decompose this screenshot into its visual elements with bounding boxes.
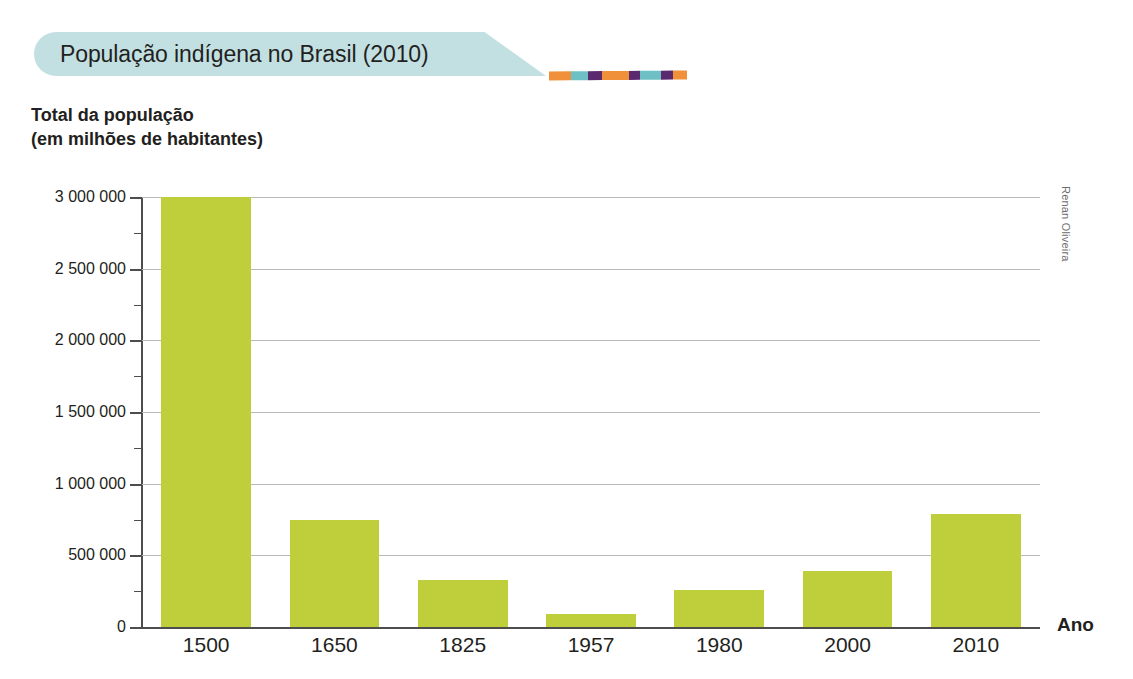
y-axis-tick-label: 0 bbox=[117, 618, 126, 636]
y-axis-minor-tick bbox=[134, 233, 141, 234]
y-axis-minor-tick bbox=[134, 520, 141, 521]
gridline bbox=[142, 555, 1040, 556]
bar[interactable] bbox=[290, 520, 380, 628]
y-axis-tick-label: 3 000 000 bbox=[55, 188, 126, 206]
x-axis-tick-label: 2010 bbox=[952, 633, 999, 657]
x-axis-title: Ano bbox=[1057, 614, 1094, 636]
gridline bbox=[142, 340, 1040, 341]
x-axis-tick-label: 1980 bbox=[696, 633, 743, 657]
bar[interactable] bbox=[161, 197, 251, 627]
bar[interactable] bbox=[803, 571, 893, 627]
y-axis-minor-tick bbox=[134, 448, 141, 449]
y-axis-tick bbox=[130, 269, 141, 271]
y-axis-tick bbox=[130, 627, 141, 629]
bar[interactable] bbox=[674, 590, 764, 627]
gridline bbox=[142, 484, 1040, 485]
x-axis-baseline bbox=[142, 627, 1040, 629]
x-axis-tick-label: 1957 bbox=[568, 633, 615, 657]
x-axis-tick-label: 1825 bbox=[439, 633, 486, 657]
y-axis-tick bbox=[130, 412, 141, 414]
gridline bbox=[142, 197, 1040, 198]
y-axis-tick-label: 2 500 000 bbox=[55, 260, 126, 278]
y-axis-tick bbox=[130, 555, 141, 557]
y-axis-tick-label: 1 500 000 bbox=[55, 403, 126, 421]
x-axis-tick-label: 1650 bbox=[311, 633, 358, 657]
bar-chart: 0500 0001 000 0001 500 0002 000 0002 500… bbox=[0, 0, 1133, 679]
image-credit: Renan Oliveira bbox=[1060, 186, 1072, 262]
y-axis-tick-labels: 0500 0001 000 0001 500 0002 000 0002 500… bbox=[0, 0, 126, 679]
y-axis-minor-tick bbox=[134, 591, 141, 592]
y-axis-tick bbox=[130, 340, 141, 342]
y-axis-tick bbox=[130, 197, 141, 199]
bar[interactable] bbox=[418, 580, 508, 627]
gridline bbox=[142, 412, 1040, 413]
y-axis-tick-label: 500 000 bbox=[68, 546, 126, 564]
bar[interactable] bbox=[931, 514, 1021, 627]
bar[interactable] bbox=[546, 614, 636, 627]
x-axis-tick-label: 2000 bbox=[824, 633, 871, 657]
plot-area bbox=[142, 197, 1040, 627]
y-axis-tick-label: 2 000 000 bbox=[55, 331, 126, 349]
x-axis-tick-label: 1500 bbox=[183, 633, 230, 657]
y-axis-tick bbox=[130, 484, 141, 486]
y-axis-tick-label: 1 000 000 bbox=[55, 475, 126, 493]
y-axis-minor-tick bbox=[134, 376, 141, 377]
y-axis-minor-tick bbox=[134, 305, 141, 306]
gridline bbox=[142, 269, 1040, 270]
